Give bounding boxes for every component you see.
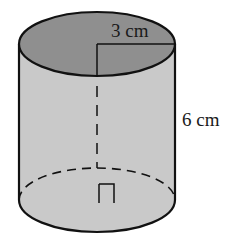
radius-label: 3 cm: [111, 20, 149, 41]
cylinder-diagram: 3 cm 6 cm: [0, 0, 242, 245]
height-label: 6 cm: [182, 109, 220, 130]
